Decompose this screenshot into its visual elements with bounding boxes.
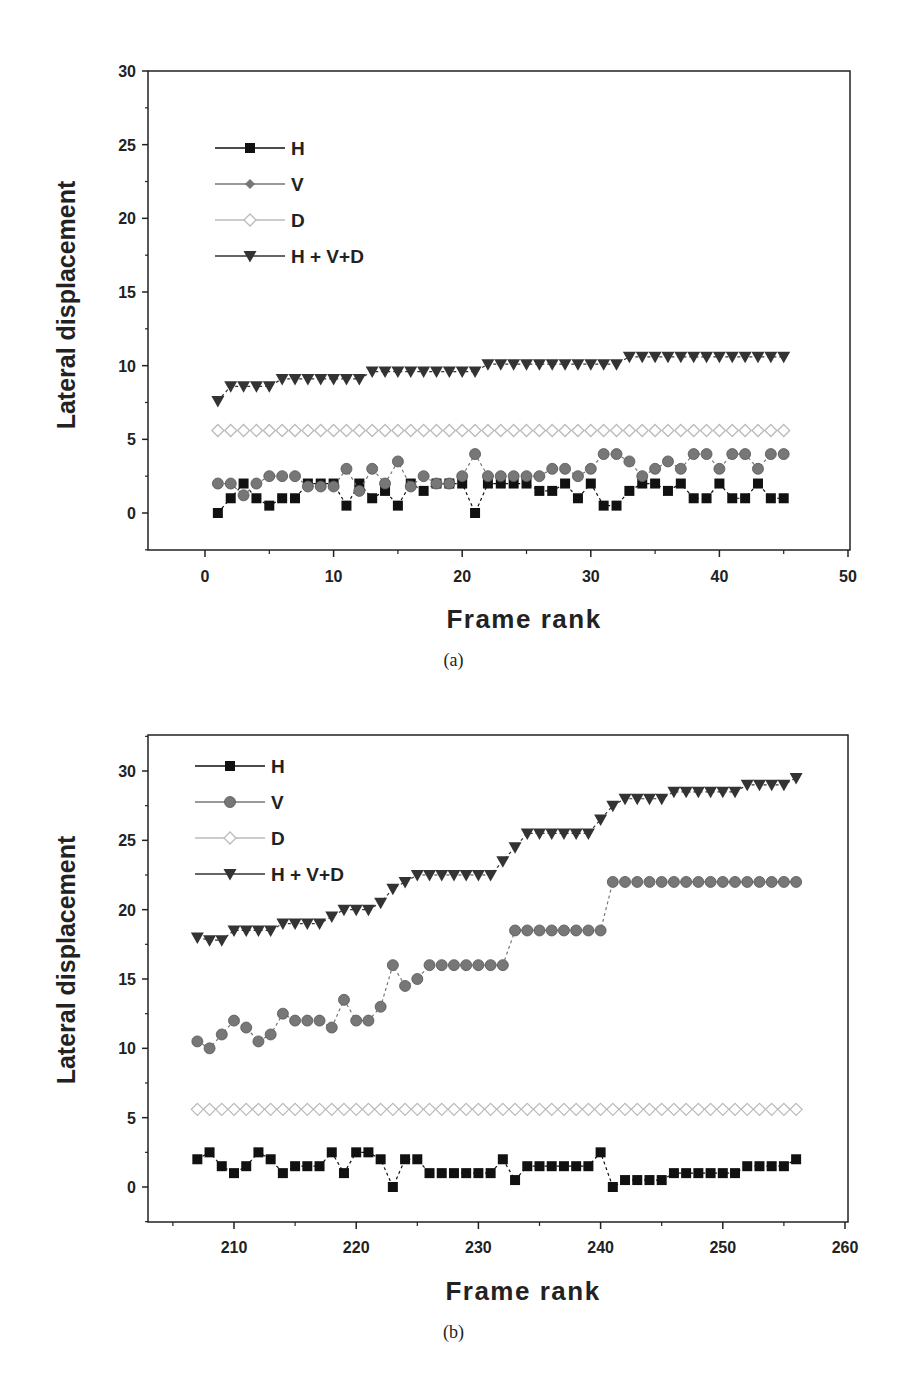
legend-label: H + V+D <box>291 246 364 267</box>
data-point <box>204 1043 215 1054</box>
data-point <box>472 1103 484 1115</box>
data-point <box>443 367 456 379</box>
legend-marker-icon <box>245 143 255 153</box>
data-point <box>675 463 686 474</box>
data-point <box>620 1175 630 1185</box>
data-point <box>583 925 594 936</box>
data-point <box>765 780 778 792</box>
x-tick-label: 20 <box>453 568 471 585</box>
data-point <box>595 1103 607 1115</box>
data-point <box>560 479 570 489</box>
data-point <box>289 1103 301 1115</box>
data-point <box>277 1103 289 1115</box>
data-point <box>448 1103 460 1115</box>
data-point <box>608 1182 618 1192</box>
data-point <box>241 1161 251 1171</box>
data-point <box>681 1168 691 1178</box>
data-point <box>290 493 300 503</box>
data-point <box>423 870 436 882</box>
data-point <box>753 479 763 489</box>
data-point <box>411 1103 423 1115</box>
legend: HVDH + V+D <box>215 138 364 267</box>
data-point <box>656 876 667 887</box>
data-point <box>778 424 790 436</box>
data-point <box>636 352 649 364</box>
data-point <box>399 1103 411 1115</box>
data-point <box>791 1154 801 1164</box>
data-point <box>289 374 302 386</box>
data-point <box>367 493 377 503</box>
data-point <box>276 374 289 386</box>
data-point <box>599 501 609 511</box>
series-line <box>197 778 796 940</box>
data-point <box>238 424 250 436</box>
data-point <box>730 876 741 887</box>
data-point <box>405 481 416 492</box>
data-point <box>689 493 699 503</box>
data-point <box>582 1103 594 1115</box>
data-point <box>705 1103 717 1115</box>
data-point <box>495 471 506 482</box>
data-point <box>290 1015 301 1026</box>
data-point <box>443 424 455 436</box>
data-point <box>460 1103 472 1115</box>
data-point <box>727 449 738 460</box>
data-point <box>265 1103 277 1115</box>
data-point <box>713 424 725 436</box>
data-point <box>510 1175 520 1185</box>
data-point <box>470 508 480 518</box>
data-point <box>754 1161 764 1171</box>
data-point <box>313 919 326 931</box>
data-point <box>778 1103 790 1115</box>
data-point <box>205 1147 215 1157</box>
data-point <box>482 424 494 436</box>
data-point <box>766 1103 778 1115</box>
data-point <box>742 876 753 887</box>
data-point <box>314 1103 326 1115</box>
data-point <box>632 1175 642 1185</box>
series-h <box>213 479 789 518</box>
data-point <box>264 501 274 511</box>
x-tick-label: 50 <box>839 568 857 585</box>
data-point <box>276 424 288 436</box>
x-tick-label: 250 <box>709 1239 736 1256</box>
data-point <box>192 1154 202 1164</box>
data-point <box>228 925 241 937</box>
data-point <box>375 1001 386 1012</box>
data-point <box>278 1168 288 1178</box>
data-point <box>656 1103 668 1115</box>
series-v <box>192 876 802 1053</box>
data-point <box>612 501 622 511</box>
data-point <box>252 1103 264 1115</box>
data-point <box>547 463 558 474</box>
data-point <box>572 471 583 482</box>
data-point <box>620 876 631 887</box>
data-point <box>655 794 668 806</box>
data-point <box>570 1103 582 1115</box>
data-point <box>558 925 569 936</box>
data-point <box>338 1103 350 1115</box>
data-point <box>228 1103 240 1115</box>
data-point <box>521 471 532 482</box>
data-point <box>668 876 679 887</box>
data-point <box>240 1103 252 1115</box>
y-tick-label: 30 <box>118 763 136 780</box>
data-point <box>624 486 634 496</box>
series-d <box>212 424 790 436</box>
data-point <box>559 359 572 371</box>
x-tick-label: 30 <box>582 568 600 585</box>
data-point <box>226 493 236 503</box>
data-point <box>674 352 687 364</box>
data-point <box>277 493 287 503</box>
data-point <box>325 912 338 924</box>
data-point <box>520 359 533 371</box>
data-point <box>753 1103 765 1115</box>
data-point <box>739 424 751 436</box>
data-point <box>623 352 636 364</box>
legend-label: H <box>291 138 305 159</box>
data-point <box>424 1103 436 1115</box>
data-point <box>631 794 644 806</box>
data-point <box>594 815 607 827</box>
data-point <box>547 486 557 496</box>
data-point <box>717 1103 729 1115</box>
